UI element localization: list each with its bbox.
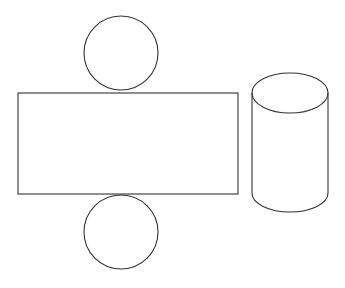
cylinder-bottom-arc [252,193,328,212]
top-circle-face [84,16,158,90]
bottom-circle-face [84,195,158,269]
cylinder-net-diagram [0,0,345,288]
cylinder-top-ellipse [252,73,328,113]
cylinder-3d [252,73,328,212]
lateral-surface-rectangle [18,93,238,194]
